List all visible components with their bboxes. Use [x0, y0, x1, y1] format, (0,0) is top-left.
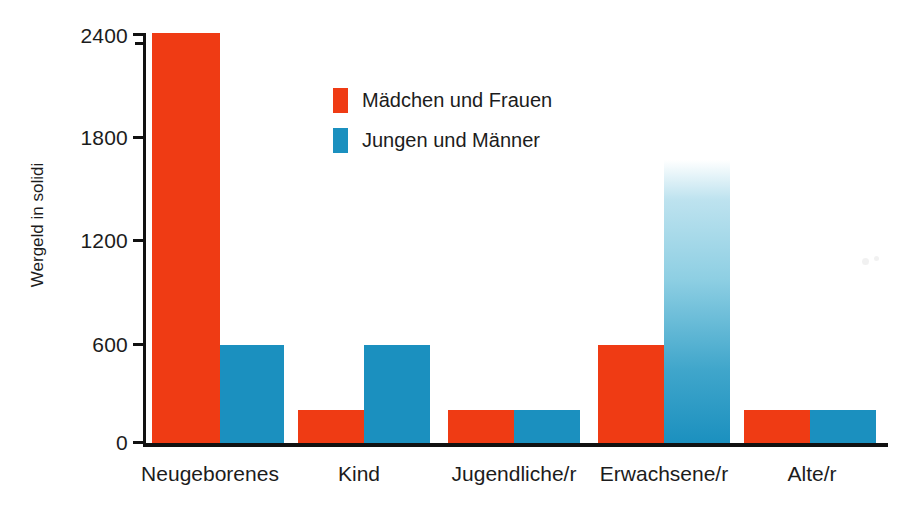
x-axis-label-jugendliche: Jugendliche/r — [438, 462, 590, 486]
legend: Mädchen und Frauen Jungen und Männer — [333, 85, 552, 165]
bar-alte-female — [744, 410, 810, 443]
x-axis-label-erwachsene: Erwachsene/r — [588, 462, 740, 486]
bar-erwachsene-female — [598, 345, 664, 443]
bar-erwachsene-male — [664, 160, 730, 443]
y-tick-mark-2400-stub — [135, 42, 144, 45]
y-axis-title: Wergeld in solidi — [28, 125, 48, 325]
legend-swatch-blue-icon — [333, 128, 348, 153]
bar-jugendliche-female — [448, 410, 514, 443]
bar-kind-female — [298, 410, 364, 443]
scan-speckle-icon — [874, 256, 879, 261]
legend-item-male: Jungen und Männer — [333, 125, 552, 155]
legend-label-male: Jungen und Männer — [362, 129, 540, 152]
bar-alte-male — [810, 410, 876, 443]
y-tick-mark-2400 — [133, 33, 146, 36]
legend-swatch-red-icon — [333, 88, 348, 113]
y-tick-label-1200: 1200 — [80, 229, 128, 253]
y-tick-mark-1200 — [133, 239, 144, 242]
y-tick-label-0: 0 — [116, 431, 128, 455]
y-tick-label-600: 600 — [92, 333, 128, 357]
bar-chart: Wergeld in solidi 2400 1800 1200 600 0 N… — [0, 0, 912, 513]
y-tick-mark-1800 — [133, 136, 144, 139]
legend-label-female: Mädchen und Frauen — [362, 89, 552, 112]
y-tick-label-1800: 1800 — [80, 126, 128, 150]
bar-kind-male — [364, 345, 430, 443]
y-tick-mark-600 — [133, 343, 144, 346]
bar-neugeborenes-female — [152, 33, 220, 443]
x-axis-label-neugeborenes: Neugeborenes — [132, 462, 288, 486]
x-axis-line — [143, 443, 888, 447]
scan-speckle-icon — [862, 258, 869, 265]
x-axis-label-alte: Alte/r — [738, 462, 886, 486]
x-axis-label-kind: Kind — [286, 462, 432, 486]
y-tick-label-2400: 2400 — [80, 24, 128, 48]
bar-jugendliche-male — [514, 410, 580, 443]
legend-item-female: Mädchen und Frauen — [333, 85, 552, 115]
bar-neugeborenes-male — [220, 345, 284, 443]
